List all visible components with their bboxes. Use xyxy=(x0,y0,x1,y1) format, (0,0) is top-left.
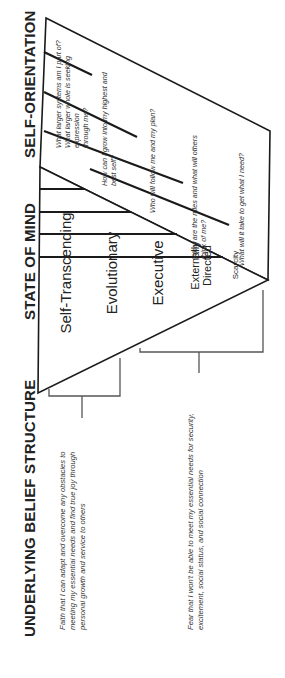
brackets xyxy=(0,0,285,678)
belief-faith: Faith that I can adapt and overcome any … xyxy=(58,420,88,630)
bracket-upper-states xyxy=(49,358,120,396)
bracket-lower-states xyxy=(140,290,263,352)
belief-diagram: SELF-ORIENTATION STATE OF MIND UNDERLYIN… xyxy=(0,0,285,678)
belief-fear: Fear that I won't be able to meet my ess… xyxy=(186,390,206,630)
